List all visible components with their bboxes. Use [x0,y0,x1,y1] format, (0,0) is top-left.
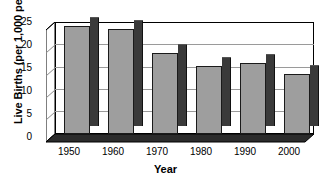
y-tick-label-25: 25 [12,17,32,27]
bar-1960-side [134,21,143,126]
plot-area [46,22,314,142]
x-tick-label-1980: 1980 [181,146,221,157]
bar-1960-face [108,29,134,134]
bar-1950 [64,26,90,134]
floor-shape [46,134,315,143]
bar-1970-side [178,45,187,126]
bar-1950-face [64,26,90,134]
bar-1970 [152,53,178,134]
x-tick-label-1950: 1950 [49,146,89,157]
x-tick-label-1990: 1990 [225,146,265,157]
x-tick-label-1960: 1960 [93,146,133,157]
y-tick-label-20: 20 [12,40,32,50]
bar-2000 [284,74,310,134]
y-tick-label-10: 10 [12,86,32,96]
y-tick-label-5: 5 [12,109,32,119]
chart-floor [46,134,314,142]
x-tick-label-2000: 2000 [269,146,309,157]
bar-1980-side [222,58,231,126]
y-tick-label-15: 15 [12,63,32,73]
bar-1970-face [152,53,178,134]
bar-1950-side [90,18,99,126]
bar-1990 [240,63,266,134]
y-tick-label-0: 0 [12,132,32,142]
bar-2000-side [310,66,319,126]
x-axis-tick-labels: 1950 1960 1970 1980 1990 2000 [0,146,331,162]
bar-2000-face [284,74,310,134]
bar-1980 [196,66,222,134]
bar-1990-side [266,55,275,126]
bar-1990-face [240,63,266,134]
bar-1980-face [196,66,222,134]
bar-chart: Live Births (per 1,000 people) 25 20 15 … [0,0,331,186]
x-tick-label-1970: 1970 [137,146,177,157]
x-axis-title: Year [0,163,331,175]
bar-1960 [108,29,134,134]
